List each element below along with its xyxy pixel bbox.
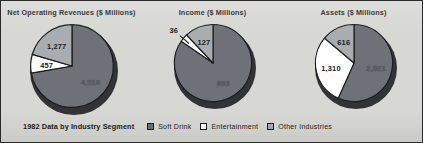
chart-assets: Assets ($ Millions) 2,5211,310616 [283, 1, 423, 113]
pie-label-other-industries: 1,277 [47, 42, 67, 51]
pie-label-entertainment: 36 [170, 25, 179, 34]
legend-caption: 1982 Data by Industry Segment [23, 122, 134, 131]
pie-label-soft-drink: 893 [217, 79, 230, 88]
industry-segment-figure: Net Operating Revenues ($ Millions) 4,51… [0, 0, 423, 143]
chart-net-operating-revenues: Net Operating Revenues ($ Millions) 4,51… [1, 1, 142, 113]
chart-title-income: Income ($ Millions) [179, 8, 247, 17]
pie-income: 89336127 [172, 22, 254, 104]
pie-assets: 2,5211,310616 [313, 22, 395, 104]
legend-swatch-soft-drink [147, 123, 154, 130]
chart-income: Income ($ Millions) 89336127 [142, 1, 283, 113]
legend-item-other-industries: Other Industries [267, 123, 332, 130]
legend-item-soft-drink: Soft Drink [147, 123, 191, 130]
legend-swatch-other-industries [267, 123, 274, 130]
legend-item-entertainment: Entertainment [200, 123, 258, 130]
pie-label-other-industries: 616 [337, 38, 350, 47]
pie-charts-row: Net Operating Revenues ($ Millions) 4,51… [1, 1, 423, 113]
legend-label-entertainment: Entertainment [211, 123, 258, 130]
legend-swatch-entertainment [200, 123, 207, 130]
pie-label-soft-drink: 2,521 [366, 63, 386, 72]
chart-title-net-operating-revenues: Net Operating Revenues ($ Millions) [7, 8, 135, 17]
pie-label-other-industries: 127 [198, 37, 211, 46]
chart-title-assets: Assets ($ Millions) [321, 8, 387, 17]
pie-label-soft-drink: 4,516 [81, 77, 101, 86]
pie-net-operating-revenues: 4,5164571,277 [28, 22, 116, 110]
legend-label-soft-drink: Soft Drink [158, 123, 191, 130]
pie-svg-income [172, 22, 254, 104]
legend: 1982 Data by Industry Segment Soft Drink… [1, 122, 423, 131]
legend-label-other-industries: Other Industries [278, 123, 332, 130]
pie-label-entertainment: 1,310 [321, 64, 341, 73]
pie-label-entertainment: 457 [40, 60, 53, 69]
